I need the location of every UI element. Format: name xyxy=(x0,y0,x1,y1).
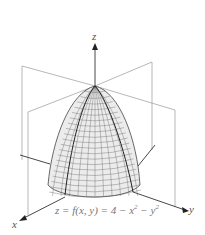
x-axis-label: x xyxy=(12,218,17,230)
y-axis-back xyxy=(138,145,155,166)
eq-part: z = f(x, y) = 4 − x xyxy=(55,204,134,216)
eq-part: − y xyxy=(138,204,156,216)
y-axis-label: y xyxy=(189,203,194,215)
paraboloid-figure xyxy=(0,0,205,235)
x-axis-back xyxy=(20,155,50,164)
paraboloid-surface xyxy=(48,86,141,197)
x-arrow-icon xyxy=(19,215,27,221)
eq-exp: 2 xyxy=(155,203,159,211)
y-arrow-icon xyxy=(182,207,189,213)
z-axis-label: z xyxy=(92,30,96,42)
surface-equation: z = f(x, y) = 4 − x2 − y2 xyxy=(55,203,159,216)
z-arrow-icon xyxy=(92,43,98,50)
